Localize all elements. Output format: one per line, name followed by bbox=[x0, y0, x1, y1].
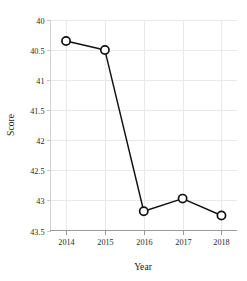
y-tick-label-41: 41 bbox=[36, 77, 44, 86]
y-tick-label-42: 42 bbox=[36, 137, 44, 146]
chart-canvas: 4040.54141.54242.54343.5 201420152016201… bbox=[0, 0, 247, 281]
y-tick-label-43.5: 43.5 bbox=[30, 228, 44, 237]
x-tick-label-2016: 2016 bbox=[136, 238, 152, 247]
x-tick-label-2015: 2015 bbox=[97, 238, 113, 247]
x-axis-title: Year bbox=[134, 261, 152, 272]
data-point-2018 bbox=[217, 211, 225, 219]
y-tick-label-40: 40 bbox=[36, 17, 44, 26]
y-tick-label-43: 43 bbox=[36, 197, 44, 206]
data-point-2016 bbox=[140, 207, 148, 215]
y-tick-label-42.5: 42.5 bbox=[30, 167, 44, 176]
data-point-2014 bbox=[62, 37, 70, 45]
y-tick-label-40.5: 40.5 bbox=[30, 47, 44, 56]
x-tick-label-2017: 2017 bbox=[175, 238, 191, 247]
y-tick-label-41.5: 41.5 bbox=[30, 107, 44, 116]
data-point-2015 bbox=[101, 46, 109, 54]
y-axis-title: Score bbox=[5, 114, 16, 136]
line-chart: 4040.54141.54242.54343.5 201420152016201… bbox=[0, 0, 247, 281]
data-point-2017 bbox=[179, 195, 187, 203]
x-tick-label-2014: 2014 bbox=[58, 238, 74, 247]
x-tick-label-2018: 2018 bbox=[213, 238, 229, 247]
